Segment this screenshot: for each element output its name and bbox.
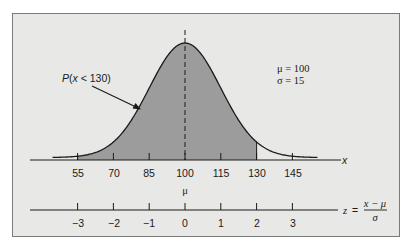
z-tick-label: 0	[182, 217, 188, 229]
z-tick-labels: −3 −2 −1 0 1 2 3	[72, 217, 296, 229]
x-tick-label: 85	[143, 167, 155, 179]
probability-label-P: P	[62, 72, 69, 84]
z-tick-label: −1	[143, 217, 155, 229]
z-formula: z = x − μ σ	[342, 198, 387, 223]
x-tick-labels: 55 70 85 100 115 130 145	[72, 167, 302, 179]
mu-marker: μ	[182, 185, 188, 196]
z-axis-ticks	[78, 203, 293, 210]
z-formula-denominator: σ	[372, 212, 378, 223]
sigma-parameter: σ = 15	[277, 75, 304, 86]
normal-distribution-chart: x 55 70 85 100 115 130 145 μ −3 −2 −1 0 …	[0, 0, 417, 249]
x-tick-label: 55	[72, 167, 84, 179]
x-tick-label: 130	[248, 167, 266, 179]
x-axis-label: x	[341, 154, 348, 166]
arrow-icon	[92, 86, 141, 110]
z-tick-label: 2	[254, 217, 260, 229]
x-tick-label: 115	[213, 167, 230, 179]
z-tick-label: −2	[108, 217, 120, 229]
z-formula-equals: =	[352, 204, 358, 216]
probability-label: P(x < 130)	[62, 72, 111, 84]
z-tick-label: 3	[290, 217, 296, 229]
z-tick-label: 1	[218, 217, 224, 229]
x-tick-label: 100	[176, 167, 194, 179]
z-formula-lhs: z	[342, 205, 347, 216]
probability-label-rest: < 130)	[78, 72, 111, 84]
z-tick-label: −3	[72, 217, 84, 229]
mu-parameter: μ = 100	[277, 63, 310, 74]
shaded-area	[78, 43, 257, 160]
x-tick-label: 70	[108, 167, 120, 179]
x-tick-label: 145	[284, 167, 302, 179]
z-formula-numerator: x − μ	[363, 198, 386, 209]
